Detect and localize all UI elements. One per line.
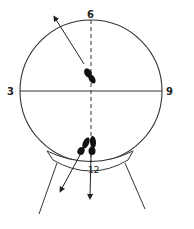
footprint-center-icon: [82, 67, 97, 85]
arrow-up-left: [55, 18, 84, 64]
left-leg: [39, 163, 57, 214]
right-leg: [125, 163, 145, 209]
label-top: 6: [87, 9, 94, 20]
clock-diagram: 6 3 9 12: [0, 0, 194, 229]
label-right: 9: [166, 86, 173, 97]
label-bottom: 12: [88, 165, 99, 175]
footprints-bottom-icon: [76, 136, 96, 156]
label-left: 3: [7, 86, 14, 97]
